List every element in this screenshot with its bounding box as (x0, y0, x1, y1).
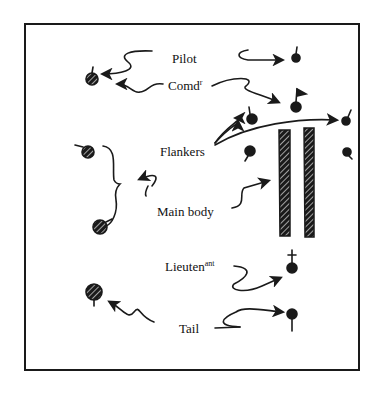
label-tail: Tail (179, 322, 199, 335)
arrow-left-group (140, 175, 156, 186)
flanker-marker-icon (245, 146, 255, 161)
label-commander: Comdr (168, 79, 202, 92)
left-group-brace (103, 146, 120, 226)
lieutenant-cross-marker-icon (287, 250, 297, 273)
commander-flag-marker-icon (291, 89, 306, 112)
hatched-marker-icon (86, 284, 102, 306)
arrow-lieutenant (233, 266, 280, 290)
arrow-main-body (232, 181, 268, 208)
label-pilot: Pilot (172, 52, 197, 65)
arrow-comd-right (212, 79, 278, 103)
pilot-marker-icon (292, 47, 300, 62)
main-body-columns (279, 128, 314, 237)
label-lieutenant: Lieutenant (165, 260, 215, 273)
flanker-marker-icon (247, 107, 257, 124)
arrow-pilot-right (239, 50, 282, 60)
arrow-tail-left (110, 302, 154, 322)
label-main-body: Main body (157, 205, 214, 218)
arrow-tail-right (223, 309, 282, 327)
flanker-marker-icon (343, 148, 352, 159)
tail-marker-icon (287, 309, 297, 331)
hatched-marker-icon (86, 67, 98, 85)
hatched-marker-icon (75, 145, 94, 158)
hatched-marker-icon (93, 219, 112, 234)
label-flankers: Flankers (160, 145, 205, 158)
arrow-pilot-left (103, 51, 152, 74)
arrow-comd-left (118, 84, 163, 93)
arrow-flanker-2 (215, 122, 238, 143)
flanker-marker-icon (342, 110, 351, 125)
